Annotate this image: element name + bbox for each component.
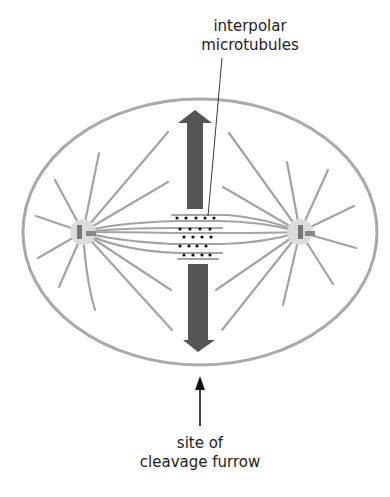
downward-force-arrow <box>183 264 215 352</box>
centriole-icon <box>298 225 303 239</box>
upward-force-arrow <box>178 110 212 209</box>
cleavage-furrow-pointer-arrow <box>195 376 205 426</box>
centriole-icon <box>77 225 82 239</box>
interpolar-pointer-line <box>208 58 222 216</box>
centriole-icon <box>86 231 96 236</box>
left-spindle-pole <box>70 219 96 245</box>
motor-protein-dots <box>175 216 215 256</box>
right-spindle-pole <box>287 219 315 245</box>
centriole-icon <box>305 231 315 236</box>
spindle-diagram <box>0 0 390 497</box>
